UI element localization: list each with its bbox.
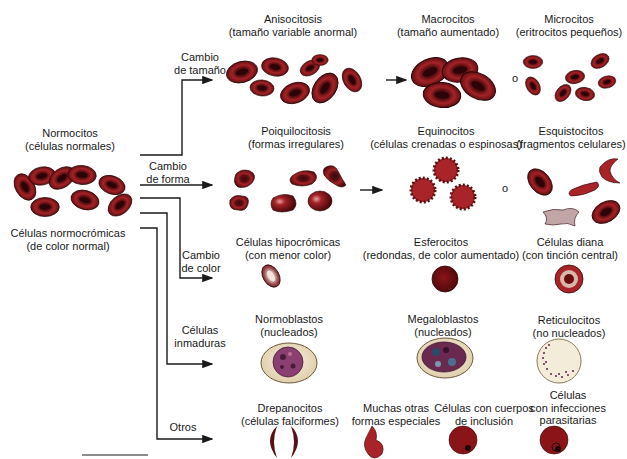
name: Anisocitosis [229, 13, 357, 26]
source-title: Normocitos (células normales) [25, 127, 115, 152]
label-poikilocytosis: Poiquilocitosis (formas irregulares) [248, 125, 344, 150]
anisocytosis-cells [224, 55, 366, 108]
label-reticulocytes: Reticulocitos (no nucleados) [533, 314, 606, 339]
branch-immature-line2: inmaduras [174, 337, 225, 350]
caption-line1: Células normocrómicas [11, 227, 126, 240]
name: Megaloblastos [408, 313, 479, 326]
name: Células diana [522, 236, 618, 249]
label-target-cells: Células diana (con tinción central) [522, 236, 618, 261]
branch-shape: Cambio de forma [146, 160, 189, 185]
desc: (con menor color) [236, 249, 341, 262]
label-microcytes: Microcitos (eritrocitos pequeños) [516, 13, 622, 38]
source-name: Normocitos [25, 127, 115, 140]
spherocyte-cell [432, 266, 458, 292]
schistocytes-cells [523, 159, 624, 228]
caption-line2: (de color normal) [11, 240, 126, 253]
sickle-cells [270, 426, 298, 458]
inclusion-body-cell [449, 426, 477, 454]
desc: (tamaño aumentado) [397, 26, 499, 39]
branch-shape-line2: de forma [146, 173, 189, 186]
name: Macrocitos [397, 13, 499, 26]
branch-color: Cambio de color [181, 249, 220, 274]
desc: (con tinción central) [522, 249, 618, 262]
label-normoblasts: Normoblastos (nucleados) [255, 313, 323, 338]
name: Poiquilocitosis [248, 125, 344, 138]
or-label-shape: o [502, 182, 508, 194]
label-megaloblasts: Megaloblastos (nucleados) [408, 313, 479, 338]
desc: (nucleados) [408, 326, 479, 339]
desc: (células crenadas o espinosas) [370, 138, 522, 151]
desc: (no nucleados) [533, 327, 606, 340]
desc2: parasitarias [530, 414, 606, 427]
source-caption: Células normocrómicas (de color normal) [11, 227, 126, 252]
name: Células con cuerpos [434, 402, 534, 415]
target-cell [555, 265, 583, 293]
label-parasitic: Células con infecciones parasitarias [530, 389, 606, 427]
source-subtitle: (células normales) [25, 140, 115, 153]
branch-size-line2: de tamaño [174, 64, 226, 77]
branch-size: Cambio de tamaño [174, 51, 226, 76]
label-hypochromic: Células hipocrómicas (con menor color) [236, 236, 341, 261]
branch-color-line1: Cambio [181, 249, 220, 262]
label-spherocytes: Esferocitos (redondas, de color aumentad… [363, 236, 520, 261]
microcytes-cells [522, 50, 617, 104]
desc: (eritrocitos pequeños) [516, 26, 622, 39]
desc: formas especiales [352, 415, 441, 428]
label-anisocytosis: Anisocitosis (tamaño variable anormal) [229, 13, 357, 38]
branch-shape-line1: Cambio [146, 160, 189, 173]
reticulocyte-cell [537, 339, 581, 383]
normocytes-cluster [10, 162, 136, 221]
desc: (formas irregulares) [248, 138, 344, 151]
normoblast-cell [261, 343, 317, 383]
desc: (células falciformes) [241, 415, 339, 428]
parasite-infected-cell [540, 426, 568, 454]
name: Esferocitos [363, 236, 520, 249]
name: Células hipocrómicas [236, 236, 341, 249]
connector-lines [82, 80, 406, 455]
label-macrocytes: Macrocitos (tamaño aumentado) [397, 13, 499, 38]
label-echinocytes: Equinocitos (células crenadas o espinosa… [370, 125, 522, 150]
branch-other: Otros [170, 421, 197, 434]
name: Normoblastos [255, 313, 323, 326]
branch-immature-line1: Células [174, 324, 225, 337]
label-inclusion-bodies: Células con cuerpos de inclusión [434, 402, 534, 427]
name: Drepanocitos [241, 402, 339, 415]
name: Reticulocitos [533, 314, 606, 327]
label-special-forms: Muchas otras formas especiales [352, 402, 441, 427]
desc: (redondas, de color aumentado) [363, 249, 520, 262]
name: Equinocitos [370, 125, 522, 138]
desc: (fragmentos celulares) [516, 138, 625, 151]
label-drepanocytes: Drepanocitos (células falciformes) [241, 402, 339, 427]
branch-size-line1: Cambio [174, 51, 226, 64]
name: Células [530, 389, 606, 402]
branch-immature: Células inmaduras [174, 324, 225, 349]
megaloblast-cell [417, 338, 473, 378]
label-schistocytes: Esquistocitos (fragmentos celulares) [516, 125, 625, 150]
name: Esquistocitos [516, 125, 625, 138]
echinocytes-cells [411, 158, 475, 209]
desc: (tamaño variable anormal) [229, 26, 357, 39]
name: Microcitos [516, 13, 622, 26]
hypochromic-cell [258, 262, 284, 291]
desc: con infecciones [530, 402, 606, 415]
special-form-cell [364, 426, 383, 458]
poikilocytosis-cells [230, 166, 346, 212]
name: Muchas otras [352, 402, 441, 415]
desc: de inclusión [434, 415, 534, 428]
or-label-size: o [512, 72, 518, 84]
macrocytes-cells [407, 52, 501, 109]
branch-other-line1: Otros [170, 421, 197, 434]
branch-color-line2: de color [181, 262, 220, 275]
desc: (nucleados) [255, 326, 323, 339]
